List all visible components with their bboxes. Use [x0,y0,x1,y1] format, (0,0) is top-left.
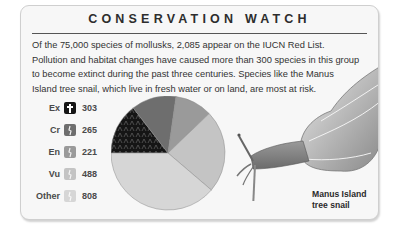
legend-item-vu: Vu 488 [21,168,113,182]
extinct-cross-icon [64,102,76,114]
legend-item-cr: Cr 265 [21,124,113,138]
legend-item-other: Other 808 [21,190,113,204]
legend-item-en: En 221 [21,146,113,160]
caption-line: tree snail [312,200,366,211]
pie-slices [111,96,225,210]
legend-value: 221 [82,147,97,157]
legend-value: 808 [82,191,97,201]
intro-line: Of the 75,000 species of mollusks, 2,085… [32,38,379,53]
title-divider [32,33,367,34]
endangered-icon [64,146,76,158]
conservation-watch-card: CONSERVATION WATCH Of the 75,000 species… [20,5,379,220]
intro-line: Island tree snail, which live in fresh w… [32,82,379,97]
critically-endangered-icon [64,124,76,136]
intro-line: to become extinct during the past three … [32,67,379,82]
other-icon [64,190,76,202]
snail-caption: Manus Island tree snail [312,189,366,211]
legend-value: 303 [82,103,97,113]
legend-label: Cr [50,125,60,135]
intro-line: Pollution and habitat changes have cause… [32,53,379,68]
legend-value: 265 [82,125,97,135]
legend-label: En [48,147,60,157]
intro-paragraph: Of the 75,000 species of mollusks, 2,085… [32,38,379,96]
vulnerable-icon [64,168,76,180]
legend-label: Other [36,191,60,201]
caption-line: Manus Island [312,189,366,200]
legend-value: 488 [82,169,97,179]
red-list-pie-chart [111,96,231,216]
legend-item-ex: Ex 303 [21,102,113,116]
card-title: CONSERVATION WATCH [21,12,378,26]
legend-label: Ex [49,103,60,113]
legend-label: Vu [49,169,60,179]
